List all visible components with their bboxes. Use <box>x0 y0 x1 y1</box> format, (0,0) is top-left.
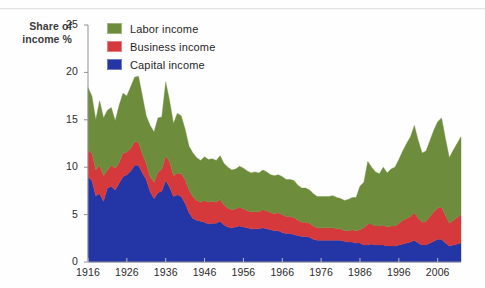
x-tick-label: 1926 <box>107 266 147 278</box>
x-tick-label: 1976 <box>301 266 341 278</box>
plot-area <box>0 0 485 288</box>
y-tick-label: 15 <box>52 113 78 125</box>
x-tick-label: 1916 <box>68 266 108 278</box>
x-tick-label: 1996 <box>379 266 419 278</box>
x-tick-label: 1946 <box>185 266 225 278</box>
chart-figure: Share of income % Labor income Business … <box>0 0 485 288</box>
y-tick-label: 20 <box>52 65 78 77</box>
x-tick-label: 1966 <box>262 266 302 278</box>
y-tick-label: 5 <box>52 208 78 220</box>
x-tick-label: 1936 <box>146 266 186 278</box>
x-tick-label: 1956 <box>223 266 263 278</box>
y-tick-label: 10 <box>52 160 78 172</box>
x-tick-label: 2006 <box>418 266 458 278</box>
y-tick-label: 25 <box>52 18 78 30</box>
x-tick-label: 1986 <box>340 266 380 278</box>
